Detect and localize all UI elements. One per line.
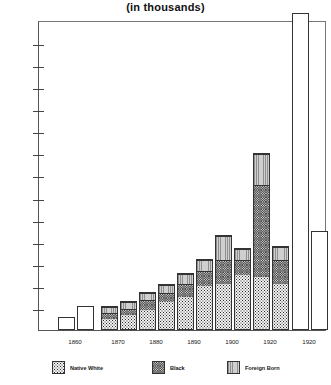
bar-segment [312, 232, 328, 329]
bar-segment [254, 185, 270, 277]
bar-segment [178, 284, 194, 297]
bar-segment [216, 260, 232, 284]
legend-swatch [227, 361, 240, 374]
legend-label: Foreign Born [245, 365, 280, 371]
bar-segment [59, 318, 75, 329]
x-axis-tick-label: 1920 [254, 338, 286, 345]
bar-segment [197, 286, 213, 329]
y-axis-tick [33, 244, 44, 245]
bar-segment [254, 277, 270, 329]
bar[interactable] [253, 153, 271, 330]
bar[interactable] [215, 235, 233, 330]
bar-segment [159, 302, 175, 329]
bar-segment [273, 260, 289, 284]
plot-area [38, 21, 326, 331]
legend-item-black[interactable]: Black [152, 361, 185, 374]
y-axis-tick [33, 89, 44, 90]
chart-legend: Native WhiteBlackForeign Born [0, 361, 331, 383]
bar-segment [273, 247, 289, 260]
y-axis-tick [33, 155, 44, 156]
legend-label: Black [170, 365, 185, 371]
bar[interactable] [77, 306, 95, 330]
bar[interactable] [120, 301, 138, 330]
bar-segment [159, 285, 175, 293]
bar[interactable] [272, 246, 290, 330]
bar-segment [216, 236, 232, 260]
x-axis-tick-label: 1890 [178, 338, 210, 345]
bar-segment [216, 284, 232, 329]
bar[interactable] [158, 284, 176, 330]
bar-segment [293, 14, 309, 329]
y-axis-tick [33, 222, 44, 223]
x-axis-tick-label: 1920 [293, 338, 325, 345]
bar[interactable] [101, 306, 119, 330]
bar-segment [140, 300, 156, 310]
y-axis-tick [33, 310, 44, 311]
legend-swatch [152, 361, 165, 374]
bar[interactable] [139, 292, 157, 330]
bar[interactable] [234, 248, 252, 330]
legend-swatch [52, 361, 65, 374]
bar[interactable] [196, 259, 214, 330]
bar[interactable] [311, 231, 329, 330]
legend-label: Native White [70, 365, 103, 371]
bar-segment [140, 310, 156, 329]
bar-segment [121, 315, 137, 329]
x-axis-tick-label: 1880 [140, 338, 172, 345]
y-axis-tick [33, 288, 44, 289]
x-axis-tick-label: 1870 [102, 338, 134, 345]
bar-segment [178, 274, 194, 285]
y-axis-tick [33, 177, 44, 178]
chart-root: (in thousands) 1020304050607080901001101… [0, 0, 331, 385]
plot-inner [39, 22, 325, 330]
y-axis-tick [33, 111, 44, 112]
y-axis-tick [33, 67, 44, 68]
y-axis-tick [33, 200, 44, 201]
bar-segment [159, 293, 175, 301]
bar-segment [235, 260, 251, 275]
legend-item-native-white[interactable]: Native White [52, 361, 103, 374]
bar-segment [273, 284, 289, 329]
bar-segment [254, 154, 270, 185]
y-axis-tick [33, 133, 44, 134]
bar[interactable] [292, 13, 310, 330]
x-axis-tick-label: 1900 [216, 338, 248, 345]
bar-segment [197, 271, 213, 286]
bar-segment [78, 307, 94, 329]
bar[interactable] [177, 273, 195, 330]
bar-segment [178, 297, 194, 329]
bar-segment [102, 319, 118, 329]
x-axis-tick-label: 1860 [59, 338, 91, 345]
bar-segment [197, 260, 213, 271]
bar-segment [235, 249, 251, 260]
bar[interactable] [58, 317, 76, 330]
legend-item-foreign-born[interactable]: Foreign Born [227, 361, 280, 374]
y-axis-tick [33, 266, 44, 267]
bar-segment [235, 275, 251, 329]
y-axis-tick [33, 45, 44, 46]
